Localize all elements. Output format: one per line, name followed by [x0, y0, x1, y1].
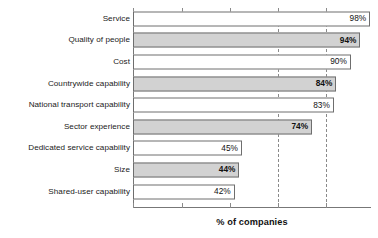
bar-row: Service 98%: [0, 8, 378, 30]
bar-row: Cost 90%: [0, 51, 378, 73]
bar[interactable]: 83%: [133, 98, 334, 113]
bar-value-label: 94%: [340, 36, 357, 45]
category-label: National transport capability: [29, 100, 130, 110]
tick-bottom-60: [278, 203, 279, 208]
plot-area: Service 98% Quality of people 94% Cost 9…: [0, 0, 378, 238]
tick-bottom-20: [182, 203, 183, 208]
category-label: Shared-user capability: [48, 187, 130, 197]
bar[interactable]: 74%: [133, 119, 312, 134]
tick-bottom-0: [133, 203, 134, 208]
bar-row: National transport capability 83%: [0, 94, 378, 116]
bar-value-label: 84%: [316, 79, 333, 88]
category-label: Countrywide capability: [48, 79, 130, 89]
bar-row: Shared-user capability 42%: [0, 181, 378, 203]
category-label: Quality of people: [68, 35, 130, 45]
x-axis-title: % of companies: [133, 217, 371, 227]
bar-value-label: 90%: [330, 57, 347, 66]
bar-row: Size 44%: [0, 159, 378, 181]
category-label: Size: [114, 165, 130, 175]
bar[interactable]: 42%: [133, 184, 235, 199]
bar-chart: Service 98% Quality of people 94% Cost 9…: [0, 0, 378, 238]
bar-value-label: 42%: [214, 187, 231, 196]
bar-row: Countrywide capability 84%: [0, 73, 378, 95]
bar-value-label: 98%: [350, 14, 367, 23]
tick-bottom-40: [230, 203, 231, 208]
bar-row: Quality of people 94%: [0, 30, 378, 52]
bar-row: Sector experience 74%: [0, 116, 378, 138]
bar-value-label: 83%: [313, 101, 330, 110]
bar[interactable]: 84%: [133, 76, 336, 91]
category-label: Cost: [113, 57, 130, 67]
bar-value-label: 74%: [291, 122, 308, 131]
bar[interactable]: 45%: [133, 141, 242, 156]
tick-bottom-80: [326, 203, 327, 208]
bar-row: Dedicated service capability 45%: [0, 138, 378, 160]
bar[interactable]: 98%: [133, 11, 370, 26]
bar-value-label: 45%: [221, 144, 238, 153]
bar-value-label: 44%: [219, 165, 236, 174]
bar[interactable]: 44%: [133, 162, 239, 177]
bar[interactable]: 90%: [133, 54, 351, 69]
category-label: Dedicated service capability: [28, 143, 130, 153]
bar[interactable]: 94%: [133, 33, 360, 48]
x-axis-line: [133, 207, 371, 208]
category-label: Service: [103, 14, 130, 24]
category-label: Sector experience: [64, 122, 130, 132]
